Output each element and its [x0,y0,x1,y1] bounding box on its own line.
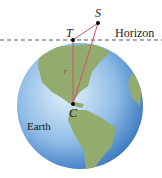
label-horizon: Horizon [115,26,154,41]
label-r: r [64,67,67,76]
label-s: S [95,6,101,21]
label-t: T [66,26,73,41]
earth-horizon-diagram: S T C r Horizon Earth [0,0,162,178]
globe [17,43,143,172]
point-s [96,21,100,25]
label-c: C [69,106,77,121]
label-earth: Earth [27,120,51,132]
